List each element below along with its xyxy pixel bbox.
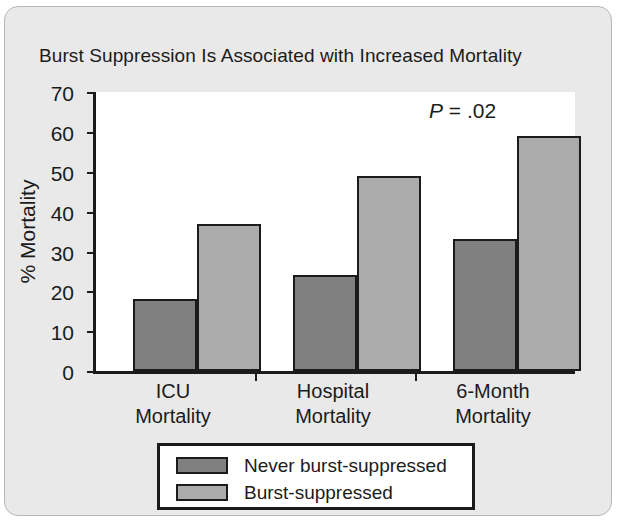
legend-item-burst-suppressed: Burst-suppressed xyxy=(176,479,472,506)
x-category-label-hospital-line1: Hospital xyxy=(258,379,408,404)
bar-6month-burst-suppressed xyxy=(517,136,581,371)
y-tick-30: 30 xyxy=(87,252,96,254)
legend-label-never-burst-suppressed: Never burst-suppressed xyxy=(244,455,447,477)
x-category-label-icu: ICU Mortality xyxy=(98,379,248,429)
y-tick-label-10: 10 xyxy=(51,321,74,345)
legend-item-never-burst-suppressed: Never burst-suppressed xyxy=(176,452,472,479)
y-tick-label-70: 70 xyxy=(51,82,74,106)
bar-icu-never-burst-suppressed xyxy=(133,299,197,371)
y-tick-label-60: 60 xyxy=(51,122,74,146)
x-tick-sep-1 xyxy=(255,371,257,381)
legend-label-burst-suppressed: Burst-suppressed xyxy=(244,482,393,504)
y-tick-20: 20 xyxy=(87,291,96,293)
bar-hospital-never-burst-suppressed xyxy=(293,275,357,371)
x-category-label-6month: 6-Month Mortality xyxy=(418,379,568,429)
y-tick-60: 60 xyxy=(87,132,96,134)
y-tick-label-50: 50 xyxy=(51,162,74,186)
legend-swatch-never-burst-suppressed xyxy=(176,457,228,474)
y-tick-label-40: 40 xyxy=(51,202,74,226)
x-category-label-6month-line2: Mortality xyxy=(418,404,568,429)
y-tick-label-0: 0 xyxy=(62,361,74,385)
x-category-label-6month-line1: 6-Month xyxy=(418,379,568,404)
bar-icu-burst-suppressed xyxy=(197,224,261,371)
p-value-symbol: P xyxy=(429,99,443,122)
figure-card: Burst Suppression Is Associated with Inc… xyxy=(4,6,612,516)
y-tick-70: 70 xyxy=(87,92,96,94)
x-category-label-icu-line2: Mortality xyxy=(98,404,248,429)
y-axis-title: % Mortality xyxy=(15,92,41,371)
bar-hospital-burst-suppressed xyxy=(357,176,421,371)
bar-6month-never-burst-suppressed xyxy=(453,239,517,371)
y-tick-40: 40 xyxy=(87,212,96,214)
y-tick-50: 50 xyxy=(87,172,96,174)
plot-area: 0 10 20 30 40 50 60 70 xyxy=(93,92,575,374)
x-category-label-icu-line1: ICU xyxy=(98,379,248,404)
p-value-annotation: P = .02 xyxy=(429,99,496,123)
y-tick-0: 0 xyxy=(87,371,96,373)
p-value-text: = .02 xyxy=(443,99,496,122)
x-category-label-hospital: Hospital Mortality xyxy=(258,379,408,429)
legend-swatch-burst-suppressed xyxy=(176,484,228,501)
y-tick-label-30: 30 xyxy=(51,242,74,266)
y-tick-10: 10 xyxy=(87,331,96,333)
chart-title: Burst Suppression Is Associated with Inc… xyxy=(39,45,522,67)
x-category-label-hospital-line2: Mortality xyxy=(258,404,408,429)
y-tick-label-20: 20 xyxy=(51,281,74,305)
x-tick-sep-2 xyxy=(415,371,417,381)
chart-legend: Never burst-suppressed Burst-suppressed xyxy=(157,443,475,510)
